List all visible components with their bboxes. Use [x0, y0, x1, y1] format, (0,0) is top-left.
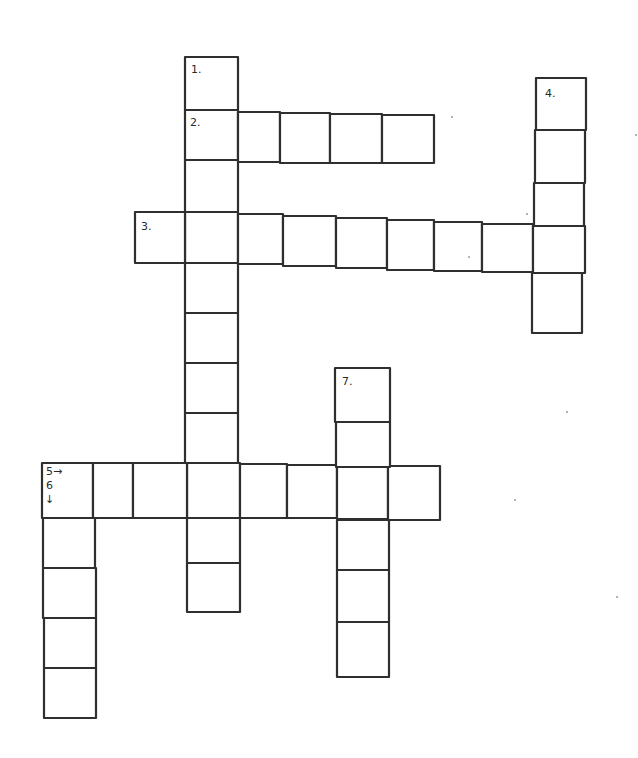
- crossword-cell-7-2[interactable]: [336, 422, 390, 467]
- crossword-cell-2-5[interactable]: [382, 115, 434, 163]
- crossword-cell-3-4[interactable]: [283, 216, 336, 266]
- crossword-cells: [42, 57, 586, 718]
- crossword-cell-3-7[interactable]: [434, 222, 482, 271]
- crossword-grid: 1.2.3.4.7.5→6↓: [0, 0, 638, 758]
- crossword-cell-5-7[interactable]: [337, 466, 388, 519]
- crossword-cell-1-3[interactable]: [185, 160, 238, 212]
- paper-speck: [635, 134, 637, 136]
- crossword-cell-6-5[interactable]: [44, 668, 96, 718]
- clue-number-label: 7.: [342, 375, 353, 388]
- crossword-cell-7-5[interactable]: [337, 570, 389, 622]
- paper-speck: [468, 256, 470, 258]
- clue-number-label: ↓: [45, 493, 54, 506]
- crossword-cell-2-2[interactable]: [238, 112, 280, 162]
- crossword-cell-6-2[interactable]: [43, 518, 95, 568]
- crossword-cell-7-4[interactable]: [337, 520, 389, 570]
- crossword-cell-3-3[interactable]: [238, 214, 283, 264]
- clue-number-label: 6: [46, 479, 53, 492]
- crossword-cell-3-6[interactable]: [387, 220, 434, 270]
- crossword-cell-2-3[interactable]: [280, 113, 330, 163]
- crossword-cell-5-8[interactable]: [388, 466, 440, 520]
- clue-number-label: 5→: [46, 465, 62, 478]
- crossword-cell-5-3[interactable]: [133, 463, 187, 518]
- clue-number-label: 2.: [190, 116, 201, 129]
- crossword-cell-6-3[interactable]: [43, 568, 96, 618]
- crossword-cell-1-4[interactable]: [185, 212, 238, 263]
- crossword-cell-1-9[interactable]: [187, 463, 240, 518]
- paper-speck: [514, 499, 516, 501]
- crossword-cell-7-6[interactable]: [337, 622, 389, 677]
- paper-speck: [566, 411, 568, 413]
- crossword-cell-4-5[interactable]: [532, 273, 582, 333]
- crossword-cell-1-7[interactable]: [185, 363, 238, 413]
- crossword-cell-5-2[interactable]: [93, 463, 133, 518]
- crossword-cell-5-6[interactable]: [287, 465, 337, 518]
- crossword-cell-1-11[interactable]: [187, 563, 240, 612]
- crossword-cell-1-6[interactable]: [185, 313, 238, 363]
- crossword-cell-1-10[interactable]: [187, 518, 240, 563]
- paper-speck: [451, 116, 453, 118]
- crossword-cell-1-5[interactable]: [185, 263, 238, 313]
- crossword-cell-5-5[interactable]: [240, 464, 287, 518]
- crossword-cell-3-9[interactable]: [533, 226, 585, 273]
- clue-number-label: 1.: [191, 63, 202, 76]
- clue-number-label: 3.: [141, 220, 152, 233]
- paper-speck: [526, 213, 528, 215]
- crossword-cell-1-8[interactable]: [185, 413, 238, 463]
- crossword-cell-6-4[interactable]: [44, 618, 96, 668]
- crossword-cell-4-2[interactable]: [535, 130, 585, 183]
- crossword-cell-2-4[interactable]: [330, 114, 382, 163]
- crossword-cell-4-1[interactable]: [536, 78, 586, 130]
- clue-number-label: 4.: [545, 87, 556, 100]
- crossword-cell-3-5[interactable]: [336, 218, 387, 268]
- paper-speck: [616, 596, 618, 598]
- crossword-cell-4-3[interactable]: [534, 183, 584, 226]
- crossword-cell-3-8[interactable]: [482, 224, 533, 272]
